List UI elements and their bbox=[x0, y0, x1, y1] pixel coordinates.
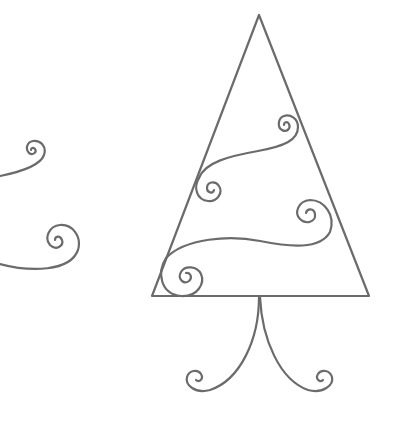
branch-swirl-bottom-left bbox=[161, 258, 202, 296]
branch-swirl-left-mid bbox=[196, 178, 220, 201]
branch-swirl-upper bbox=[0, 141, 45, 176]
partial-tree-fragment bbox=[0, 141, 79, 269]
branch-swirl-right bbox=[166, 200, 332, 258]
trunk-left bbox=[187, 297, 259, 391]
tree-triangle bbox=[152, 15, 369, 296]
branch-swirl-lower bbox=[0, 225, 79, 269]
trunk-right bbox=[260, 297, 332, 391]
swirl-tree bbox=[152, 15, 369, 391]
branch-swirl-top bbox=[199, 115, 298, 178]
tree-illustration bbox=[0, 0, 397, 434]
